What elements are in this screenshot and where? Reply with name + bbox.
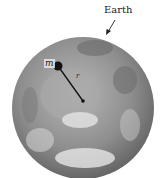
radius-label: r [76, 72, 79, 80]
earth-label: Earth [104, 4, 133, 15]
center-point [81, 99, 85, 103]
earth-globe [12, 37, 154, 178]
arrowhead-icon [106, 29, 111, 35]
mass-label: m [44, 59, 55, 68]
mass-dot [54, 62, 63, 71]
earth-diagram [0, 0, 163, 178]
